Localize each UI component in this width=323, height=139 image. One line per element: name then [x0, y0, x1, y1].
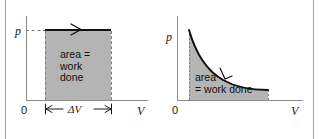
delta-v-label: ΔV: [68, 103, 81, 115]
panel-constant-pressure: | --> p V 0 area = work done ΔV: [8, 0, 163, 139]
process-direction-arrow-icon: [71, 24, 81, 35]
panel-varying-pressure: p V 0 area = work done: [163, 0, 318, 139]
volume-axis: [177, 100, 303, 101]
right-panel-overlay: [163, 0, 318, 139]
origin-label: 0: [172, 105, 178, 116]
work-area-caption-line-2: = work done: [195, 84, 253, 96]
x-axis-label-volume: V: [137, 105, 144, 117]
pv-diagram-figure: | --> p V 0 area = work done ΔV: [0, 0, 323, 139]
work-area-caption-line-1: area =: [60, 49, 90, 61]
origin-label: 0: [21, 105, 27, 116]
work-area-caption-line-1: area: [195, 72, 253, 84]
y-axis-label-pressure: p: [166, 31, 172, 43]
work-area-caption: area = work done: [195, 72, 253, 95]
work-area-caption: area = work done: [60, 49, 90, 84]
y-axis-label-pressure: p: [15, 25, 21, 37]
work-area-caption-line-3: done: [60, 72, 90, 84]
x-axis-label-volume: V: [291, 105, 298, 117]
pressure-axis: [177, 16, 178, 100]
figure-left-border: [5, 0, 6, 139]
